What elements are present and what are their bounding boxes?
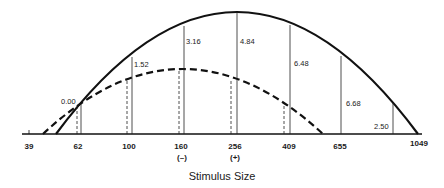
value-label-655: 6.68 (346, 99, 361, 108)
value-label-100: 1.52 (134, 60, 149, 69)
dashed-verticals (77, 69, 284, 134)
value-label-409: 6.48 (294, 59, 309, 68)
stimulus-size-chart: 0.00 1.52 3.16 4.84 6.48 6.68 2.50 39 62… (0, 0, 444, 188)
value-label-160: 3.16 (186, 37, 201, 46)
plus-sublabel: (+) (230, 153, 240, 162)
tick-label-100: 100 (122, 142, 136, 151)
minus-sublabel: (–) (177, 153, 187, 162)
x-axis-title: Stimulus Size (189, 170, 256, 182)
tick-label-62: 62 (74, 142, 83, 151)
tick-label-1049: 1049 (410, 139, 428, 148)
tick-label-655: 655 (333, 142, 347, 151)
dashed-curve (43, 69, 323, 134)
tick-label-256: 256 (228, 142, 242, 151)
tick-label-39: 39 (25, 142, 34, 151)
value-label-62: 0.00 (61, 97, 76, 106)
value-label-850: 2.50 (374, 122, 389, 131)
tick-label-160: 160 (174, 142, 188, 151)
chart-canvas: 0.00 1.52 3.16 4.84 6.48 6.68 2.50 39 62… (0, 0, 444, 188)
solid-verticals (81, 12, 393, 134)
tick-label-409: 409 (282, 142, 296, 151)
value-label-256: 4.84 (240, 37, 255, 46)
